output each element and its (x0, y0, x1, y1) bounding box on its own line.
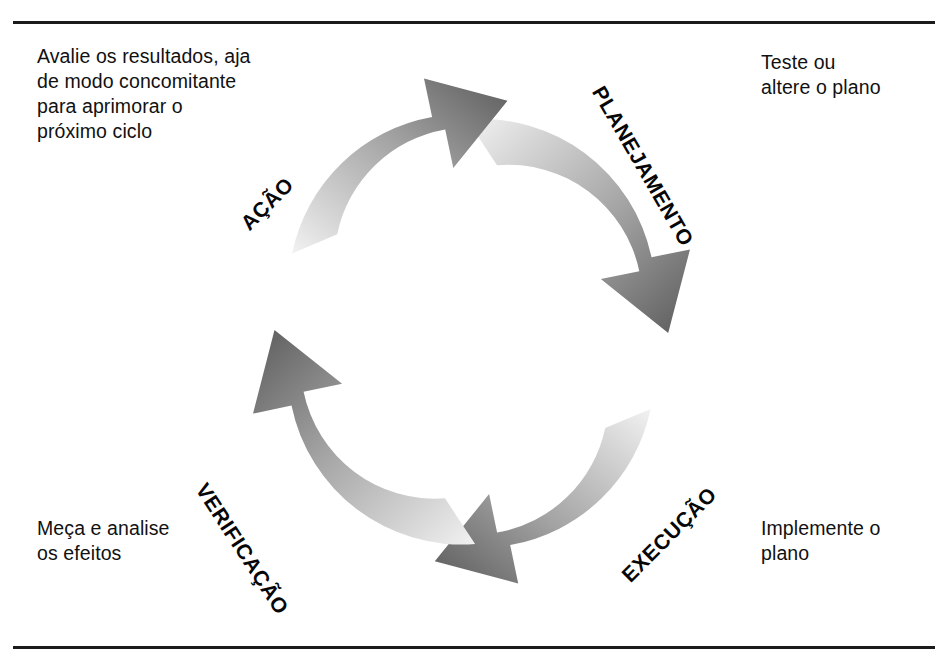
caption-acao: Avalie os resultados, aja de modo concom… (37, 44, 251, 144)
arrow-verificacao (253, 330, 475, 545)
caption-execucao: Implemente o plano (761, 516, 880, 566)
arrow-acao (292, 79, 507, 254)
pdca-diagram-page: AÇÃO PLANEJAMENTO EXECUÇÃO VERIFICAÇÃO A… (0, 0, 946, 664)
caption-verificacao: Meça e analise os efeitos (37, 516, 170, 566)
caption-planejamento: Teste ou altere o plano (761, 50, 881, 100)
arrow-execucao (435, 409, 651, 584)
arrow-planejamento (467, 119, 690, 333)
